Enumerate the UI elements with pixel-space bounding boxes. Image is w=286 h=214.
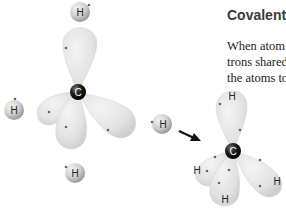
orbital-lobe-top bbox=[63, 28, 97, 93]
orbital-lobe-right bbox=[233, 151, 282, 197]
electron-dot bbox=[65, 47, 68, 50]
left-carbon-atom: C bbox=[70, 84, 86, 100]
electron-dot bbox=[239, 129, 242, 132]
hydrogen-label-right: H bbox=[273, 176, 280, 187]
electron-dot bbox=[214, 156, 217, 159]
electron-dot bbox=[65, 126, 68, 129]
hydrogen-label: H bbox=[71, 168, 78, 179]
electron-dot bbox=[48, 111, 51, 114]
left-hydrogen-left: H bbox=[4, 98, 24, 120]
right-carbon-atom: C bbox=[225, 143, 241, 159]
arrow-icon bbox=[179, 131, 201, 141]
hydrogen-label-bottom: H bbox=[221, 194, 228, 205]
carbon-label: C bbox=[229, 146, 236, 157]
covalent-bond-figure: C H H H H bbox=[0, 0, 286, 214]
methane-diagram: C H H H H bbox=[0, 0, 286, 214]
hydrogen-label: H bbox=[10, 105, 17, 116]
left-hydrogen-top: H bbox=[70, 2, 90, 22]
left-carbon-orbitals bbox=[37, 28, 135, 150]
incoming-hydrogen: H bbox=[151, 114, 172, 134]
electron-dot bbox=[259, 159, 262, 162]
hydrogen-label: H bbox=[76, 7, 83, 18]
section-body: When atom trons shared the atoms to bbox=[227, 38, 286, 86]
hydrogen-label: H bbox=[159, 119, 166, 130]
left-hydrogen-bottom: H bbox=[65, 163, 85, 183]
electron-dot bbox=[206, 170, 209, 173]
carbon-label: C bbox=[74, 87, 81, 98]
body-line: trons shared bbox=[227, 54, 286, 70]
electron-dot bbox=[218, 182, 221, 185]
electron-dot bbox=[228, 169, 231, 172]
hydrogen-label-left: H bbox=[193, 165, 200, 176]
section-title: Covalent bbox=[227, 7, 286, 23]
body-line: When atom bbox=[227, 38, 286, 54]
hydrogen-label-top: H bbox=[228, 91, 235, 102]
electron-dot bbox=[259, 185, 262, 188]
body-line: the atoms to bbox=[227, 70, 286, 86]
electron-dot bbox=[219, 103, 222, 106]
electron-dot bbox=[107, 129, 110, 132]
